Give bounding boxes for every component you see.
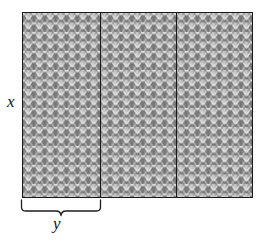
knit-fabric-figure: x y: [0, 0, 266, 241]
dimension-label-y: y: [53, 215, 61, 232]
dimension-label-x: x: [7, 93, 15, 110]
knit-texture: [23, 13, 252, 197]
panel-divider-right: [176, 12, 177, 198]
brace-icon: [20, 199, 102, 217]
fabric-rectangle: [22, 12, 253, 198]
panel-divider-left: [100, 12, 101, 198]
